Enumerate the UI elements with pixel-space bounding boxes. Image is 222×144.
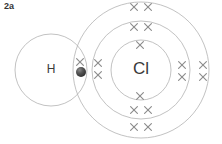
cross-bonding-pair-icon (77, 59, 84, 66)
cross-middle-left-upper-icon (95, 60, 102, 67)
cross-outer-top-left-icon (131, 4, 138, 11)
diagram-canvas: H Cl (0, 0, 222, 144)
cross-inner-top-icon (137, 42, 144, 49)
chlorine-symbol-label: Cl (133, 59, 149, 78)
cross-outer-top-right-icon (145, 4, 152, 11)
cross-inner-bottom-icon (137, 93, 144, 100)
cross-middle-top-left-icon (131, 24, 138, 31)
dot-and-cross-diagram: 2a H Cl (0, 0, 222, 144)
cross-middle-top-right-icon (145, 24, 152, 31)
cross-outer-bottom-right-icon (145, 124, 152, 131)
dot-electrons-layer (76, 67, 86, 77)
cross-middle-left-lower-icon (95, 72, 102, 79)
cross-outer-right-upper-icon (200, 62, 207, 69)
cross-outer-bottom-left-icon (131, 124, 138, 131)
cross-outer-right-lower-icon (200, 74, 207, 81)
cross-middle-bottom-right-icon (145, 107, 152, 114)
cross-middle-right-lower-icon (179, 74, 186, 81)
dot-hydrogen-electron-icon (76, 67, 86, 77)
hydrogen-symbol-label: H (47, 62, 56, 76)
cross-middle-right-upper-icon (179, 62, 186, 69)
cross-middle-bottom-left-icon (131, 107, 138, 114)
